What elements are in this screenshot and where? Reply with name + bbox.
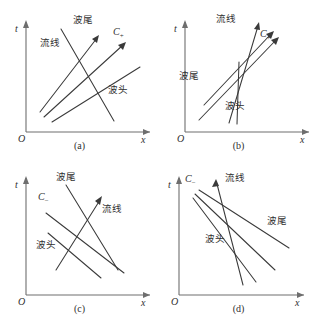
wave-head-label-c: 波头 — [36, 240, 56, 250]
caption-a: (a) — [0, 140, 159, 151]
wave-tail-label-a: 波尾 — [73, 15, 93, 25]
t-axis-label: t — [174, 24, 177, 34]
streamline-label-a: 流线 — [40, 38, 60, 48]
wave-head-label-d: 波头 — [205, 234, 225, 244]
caption-b: (b) — [159, 140, 318, 151]
characteristic-lines — [193, 179, 289, 285]
wave-tail-label-b: 波尾 — [179, 71, 199, 81]
wave-tail-label-d: 波尾 — [267, 216, 287, 226]
streamline-c-arrowhead — [95, 196, 102, 205]
wave-head-label-a: 波头 — [108, 85, 128, 95]
t-axis-label: t — [15, 180, 18, 190]
c-minus-label-c: C− — [38, 192, 49, 205]
panel-d-plot — [159, 160, 318, 320]
figure-root: t x O 波尾 流线 C+ 波头 (a) — [0, 0, 318, 321]
characteristic-lines — [46, 185, 124, 278]
t-axis-arrowhead — [176, 176, 182, 184]
streamline-d-arrowhead — [212, 179, 219, 187]
panel-c: t x O 波尾 C− 流线 波头 (c) — [0, 160, 159, 320]
caption-c: (c) — [0, 303, 159, 314]
wave-head-label-b: 波头 — [225, 101, 245, 111]
panel-b: t x O 流线 C+ 波尾 波头 (b) — [159, 0, 318, 160]
caption-d: (d) — [159, 303, 318, 314]
streamline-label-c: 流线 — [102, 204, 122, 214]
streamline-label-b: 流线 — [216, 14, 236, 24]
panel-d: t x O C− 流线 波尾 波头 (d) — [159, 160, 318, 320]
wave-tail-line-c — [66, 185, 118, 270]
streamline-label-d: 流线 — [225, 173, 245, 183]
c-minus-label-d: C− — [185, 174, 196, 187]
c-plus-label-a: C+ — [113, 27, 124, 40]
t-axis-arrowhead — [182, 20, 188, 28]
wave-tail-label-c: 波尾 — [56, 172, 76, 182]
wave-tail-line-d — [195, 194, 275, 270]
streamline-c — [56, 200, 100, 270]
c-plus-label-b: C+ — [260, 29, 271, 42]
streamline-a — [40, 38, 97, 112]
wave-head-line-b — [237, 62, 239, 124]
panel-a: t x O 波尾 流线 C+ 波头 (a) — [0, 0, 159, 160]
t-axis-arrowhead — [23, 20, 29, 28]
t-axis-label: t — [168, 180, 171, 190]
t-axis-arrowhead — [23, 176, 29, 184]
t-axis-label: t — [15, 24, 18, 34]
streamline-a-arrowhead — [92, 35, 99, 43]
